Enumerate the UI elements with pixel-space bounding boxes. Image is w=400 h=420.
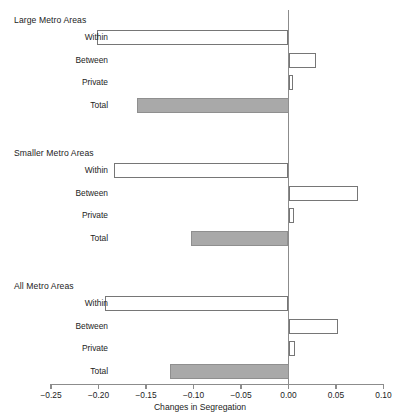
- bar-row: Total: [0, 98, 400, 113]
- bar-total[interactable]: [170, 364, 289, 379]
- bar-label-between: Between: [75, 186, 108, 201]
- group-label-large-metro-areas: Large Metro Areas: [14, 15, 86, 25]
- x-axis-tick: [98, 384, 99, 389]
- x-axis-tick: [335, 384, 336, 389]
- bar-row: Total: [0, 231, 400, 246]
- x-axis-tick: [193, 384, 194, 389]
- bar-label-private: Private: [82, 341, 108, 356]
- x-axis-tick-label: −0.25: [40, 390, 61, 400]
- bar-within[interactable]: [114, 163, 289, 178]
- bar-row: Private: [0, 208, 400, 223]
- bar-row: Between: [0, 186, 400, 201]
- x-axis-tick-label: 0.10: [375, 390, 391, 400]
- bar-label-total: Total: [90, 98, 108, 113]
- bar-label-between: Between: [75, 319, 108, 334]
- bar-row: Private: [0, 341, 400, 356]
- bar-total[interactable]: [191, 231, 289, 246]
- bar-row: Total: [0, 364, 400, 379]
- bar-between[interactable]: [289, 186, 358, 201]
- bar-label-within: Within: [85, 163, 108, 178]
- bar-label-total: Total: [90, 364, 108, 379]
- changes-in-segregation-bar-chart: Changes in Segregation −0.25−0.20−0.15−0…: [0, 0, 400, 420]
- group-label-all-metro-areas: All Metro Areas: [14, 281, 74, 291]
- bar-within[interactable]: [105, 296, 288, 311]
- group-label-smaller-metro-areas: Smaller Metro Areas: [14, 148, 94, 158]
- x-axis-tick-label: −0.20: [88, 390, 109, 400]
- bar-row: Between: [0, 319, 400, 334]
- bar-private[interactable]: [289, 75, 294, 90]
- bar-private[interactable]: [289, 208, 295, 223]
- x-axis-tick: [383, 384, 384, 389]
- x-axis-tick: [288, 384, 289, 389]
- bar-label-within: Within: [85, 30, 108, 45]
- x-axis-tick-label: −0.05: [230, 390, 251, 400]
- x-axis-tick-label: −0.10: [183, 390, 204, 400]
- bar-between[interactable]: [289, 319, 338, 334]
- bar-private[interactable]: [289, 341, 296, 356]
- x-axis-tick-label: 0.05: [328, 390, 344, 400]
- x-axis-tick: [145, 384, 146, 389]
- bar-label-private: Private: [82, 75, 108, 90]
- bar-row: Within: [0, 296, 400, 311]
- x-axis-tick: [50, 384, 51, 389]
- bar-row: Between: [0, 53, 400, 68]
- x-axis-tick: [240, 384, 241, 389]
- x-axis-title: Changes in Segregation: [0, 402, 400, 412]
- bar-row: Within: [0, 30, 400, 45]
- bar-between[interactable]: [289, 53, 317, 68]
- bar-total[interactable]: [137, 98, 289, 113]
- x-axis-tick-label: 0.00: [280, 390, 296, 400]
- x-axis-tick-label: −0.15: [135, 390, 156, 400]
- bar-label-private: Private: [82, 208, 108, 223]
- bar-label-total: Total: [90, 231, 108, 246]
- bar-within[interactable]: [97, 30, 289, 45]
- bar-row: Private: [0, 75, 400, 90]
- x-axis-line: [50, 384, 384, 385]
- bar-label-within: Within: [85, 296, 108, 311]
- bar-label-between: Between: [75, 53, 108, 68]
- bar-row: Within: [0, 163, 400, 178]
